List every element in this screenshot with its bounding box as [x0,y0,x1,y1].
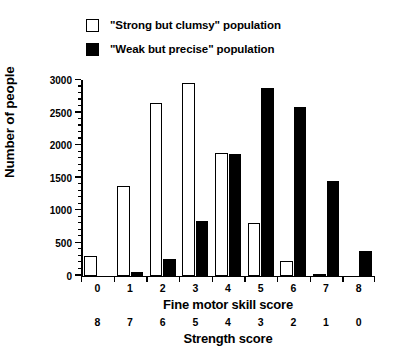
y-axis-minor-tick [78,131,82,132]
y-axis-minor-tick [78,235,82,236]
bar-strong-but-clumsy-7 [313,274,326,276]
y-axis-minor-tick [78,261,82,262]
x-axis-secondary-tick-label: 8 [94,316,100,328]
bar-weak-but-precise-4 [229,154,242,275]
bar-strong-but-clumsy-1 [117,186,130,276]
bar-strong-but-clumsy-5 [248,223,261,275]
bar-strong-but-clumsy-0 [84,256,97,276]
y-axis-tick-label: 2500 [50,107,72,118]
legend-item-weak-but-precise: "Weak but precise" population [86,37,386,61]
bar-weak-but-precise-5 [261,88,274,276]
x-axis-primary-tick-label: 2 [160,282,166,294]
x-axis-primary-tick-label: 7 [323,282,329,294]
chart-legend: "Strong but clumsy" population "Weak but… [86,13,386,61]
y-axis-tick-label: 1500 [50,172,72,183]
legend-item-label: "Weak but precise" population [110,43,274,55]
x-axis-primary-title: Fine motor skill score [81,297,375,312]
y-axis-tick-label: 3000 [50,75,72,86]
x-axis-secondary-tick-label: 7 [127,316,133,328]
legend-item-label: "Strong but clumsy" population [110,19,281,31]
bar-strong-but-clumsy-3 [182,83,195,275]
bar-weak-but-precise-1 [131,272,144,275]
x-axis-secondary-tick-label: 5 [192,316,198,328]
y-axis-minor-tick [78,248,82,249]
y-axis-minor-tick [78,183,82,184]
y-axis-minor-tick [78,170,82,171]
y-axis-minor-tick [78,268,82,269]
x-axis-secondary-tick-label: 4 [225,316,231,328]
y-axis-major-tick [75,111,81,112]
y-axis-minor-tick [78,105,82,106]
bar-chart-plot-area: 050010001500200025003000 [81,80,375,277]
y-axis-minor-tick [78,124,82,125]
y-axis-major-tick [75,274,81,275]
y-axis-tick-label: 0 [66,270,72,281]
x-axis-secondary-tick-label: 0 [356,316,362,328]
y-axis-minor-tick [78,229,82,230]
x-axis-primary-tick-label: 4 [225,282,231,294]
bar-weak-but-precise-7 [327,181,340,275]
filled-square-swatch-icon [86,43,99,56]
bar-strong-but-clumsy-4 [215,153,228,276]
y-axis-minor-tick [78,255,82,256]
bar-weak-but-precise-6 [294,107,307,275]
x-axis-secondary-title: Strength score [81,331,375,346]
y-axis-tick-label: 500 [55,237,72,248]
x-axis-primary-tick-label: 5 [258,282,264,294]
bar-strong-but-clumsy-6 [280,261,293,275]
x-axis-primary-tick-labels: 012345678 [81,282,375,296]
y-axis-minor-tick [78,98,82,99]
open-square-swatch-icon [86,19,99,32]
y-axis-title: Number of people [2,66,17,178]
x-axis-secondary-tick-label: 1 [323,316,329,328]
x-axis-secondary-tick-labels: 876543210 [81,316,375,330]
y-axis-tick-label: 1000 [50,205,72,216]
x-axis-line [81,276,375,278]
x-axis-primary-tick-label: 1 [127,282,133,294]
y-axis-major-tick [75,144,81,145]
y-axis-minor-tick [78,216,82,217]
y-axis-minor-tick [78,203,82,204]
y-axis-tick-label: 2000 [50,140,72,151]
y-axis-minor-tick [78,118,82,119]
bar-weak-but-precise-3 [196,221,209,275]
x-axis-primary-tick-label: 6 [290,282,296,294]
x-axis-primary-tick-label: 8 [356,282,362,294]
bar-strong-but-clumsy-2 [150,103,163,276]
y-axis-major-tick [75,176,81,177]
y-axis-line [81,80,83,277]
x-axis-primary-tick-label: 0 [94,282,100,294]
y-axis-minor-tick [78,196,82,197]
y-axis-minor-tick [78,151,82,152]
bar-weak-but-precise-8 [359,251,372,275]
y-axis-major-tick [75,242,81,243]
y-axis-minor-tick [78,164,82,165]
x-axis-secondary-tick-label: 6 [160,316,166,328]
bar-weak-but-precise-2 [163,259,176,275]
legend-item-strong-but-clumsy: "Strong but clumsy" population [86,13,386,37]
y-axis-minor-tick [78,222,82,223]
y-axis-minor-tick [78,92,82,93]
x-axis-secondary-tick-label: 3 [258,316,264,328]
y-axis-major-tick [75,79,81,80]
x-axis-primary-tick-label: 3 [192,282,198,294]
y-axis-major-tick [75,209,81,210]
y-axis-minor-tick [78,190,82,191]
y-axis-minor-tick [78,137,82,138]
y-axis-minor-tick [78,157,82,158]
y-axis-minor-tick [78,85,82,86]
x-axis-secondary-tick-label: 2 [290,316,296,328]
